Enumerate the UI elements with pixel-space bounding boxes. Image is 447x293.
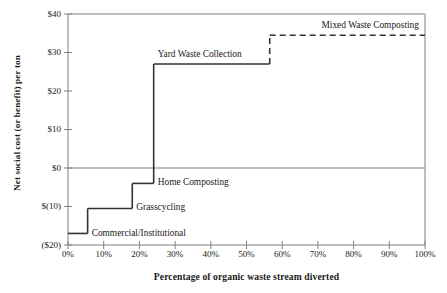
series-label-home-composting: Home Composting — [158, 178, 229, 187]
chart-figure: Net social cost (or benefit) per ton Per… — [0, 0, 447, 293]
series-label-grasscycling: Grasscycling — [136, 203, 185, 212]
step-series — [68, 35, 425, 233]
series-label-yard-waste-collection: Yard Waste Collection — [158, 50, 242, 59]
series-label-mixed-waste-composting: Mixed Waste Composting — [321, 21, 419, 30]
axes-group — [64, 14, 425, 249]
plot-area — [0, 0, 447, 293]
series-label-commercial-institutional: Commercial/Institutional — [92, 229, 186, 238]
